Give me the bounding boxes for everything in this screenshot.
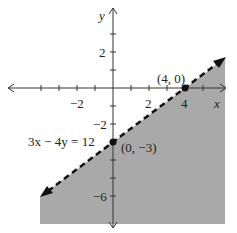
x-tick-label: 2 [145, 96, 152, 111]
x-tick-label: 4 [181, 96, 188, 111]
x-axis-label: x [213, 96, 220, 111]
x-tick-label: −2 [70, 96, 84, 111]
y-tick-label: −2 [93, 117, 107, 132]
y-tick-label: 2 [99, 45, 106, 60]
y-tick-label: −6 [93, 189, 107, 204]
point-label-4-0: (4, 0) [157, 71, 185, 86]
y-axis-label: y [97, 8, 105, 23]
equation-label: 3x − 4y = 12 [28, 134, 95, 149]
point-label-0-neg3: (0, −3) [121, 140, 157, 155]
inequality-graph: y x −2 2 4 2 −2 −6 (4, 0) (0, −3) 3x − 4… [0, 0, 237, 233]
point-0-neg3 [110, 139, 117, 146]
